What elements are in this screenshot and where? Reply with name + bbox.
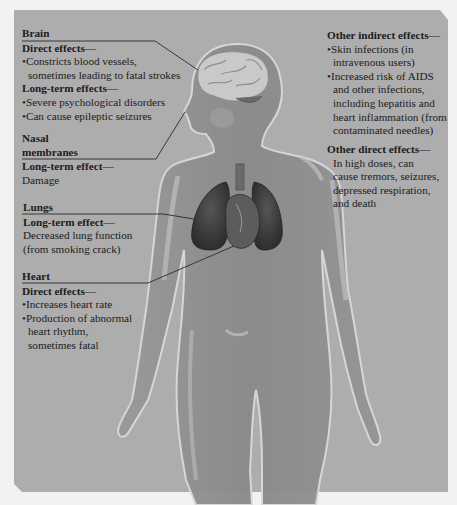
lungs-longterm-line: Decreased lung function bbox=[23, 229, 132, 243]
other-indirect-line: contaminated needles) bbox=[327, 124, 447, 138]
brain-direct-item: •Constricts blood vessels, bbox=[22, 55, 180, 69]
other-direct-heading: Other direct effects— bbox=[327, 143, 439, 157]
lungs-callout: Lungs Long-term effect— Decreased lung f… bbox=[23, 201, 132, 256]
heart-direct-line: sometimes fatal bbox=[22, 339, 132, 353]
other-direct-line: cause tremors, seizures, bbox=[327, 170, 439, 184]
heart-callout: Heart Direct effects— •Increases heart r… bbox=[22, 270, 132, 353]
heart-direct-line: heart rhythm, bbox=[22, 325, 132, 339]
lungs-title: Lungs bbox=[23, 201, 132, 215]
nasal-title: membranes bbox=[22, 146, 114, 160]
other-indirect-line: including hepatitis and bbox=[327, 97, 447, 111]
brain-title: Brain bbox=[22, 27, 180, 41]
brain-direct-item: sometimes leading to fatal strokes bbox=[22, 69, 180, 83]
other-indirect-line: •Increased risk of AIDS bbox=[327, 70, 447, 84]
other-direct-line: depressed respiration, bbox=[327, 184, 439, 198]
heart-direct-heading: Direct effects— bbox=[22, 285, 132, 299]
brain-direct-heading: Direct effects— bbox=[22, 42, 180, 56]
nasal-longterm-heading: Long-term effect— bbox=[22, 160, 114, 174]
other-indirect-line: •Skin infections (in bbox=[327, 43, 447, 57]
nasal-title: Nasal bbox=[22, 132, 114, 146]
heart-direct-line: •Production of abnormal bbox=[22, 312, 132, 326]
nasal-longterm-text: Damage bbox=[22, 174, 114, 188]
lungs-longterm-heading: Long-term effect— bbox=[23, 216, 132, 230]
nasal-callout: Nasal membranes Long-term effect— Damage bbox=[22, 132, 114, 187]
other-indirect-callout: Other indirect effects— •Skin infections… bbox=[327, 29, 447, 138]
other-direct-callout: Other direct effects— In high doses, can… bbox=[327, 143, 439, 211]
brain-longterm-item: •Can cause epileptic seizures bbox=[22, 110, 180, 124]
lungs-longterm-line: (from smoking crack) bbox=[23, 243, 132, 257]
brain-longterm-item: •Severe psychological disorders bbox=[22, 96, 180, 110]
other-indirect-line: and other infections, bbox=[327, 83, 447, 97]
brain-callout: Brain Direct effects— •Constricts blood … bbox=[22, 27, 180, 123]
other-direct-line: In high doses, can bbox=[327, 157, 439, 171]
heart-title: Heart bbox=[22, 270, 132, 284]
other-indirect-heading: Other indirect effects— bbox=[327, 29, 447, 43]
other-indirect-line: heart inflammation (from bbox=[327, 111, 447, 125]
brain-longterm-heading: Long-term effects— bbox=[22, 82, 180, 96]
heart-organ bbox=[226, 194, 260, 248]
other-direct-line: and death bbox=[327, 197, 439, 211]
other-indirect-line: intravenous users) bbox=[327, 56, 447, 70]
heart-direct-line: •Increases heart rate bbox=[22, 298, 132, 312]
